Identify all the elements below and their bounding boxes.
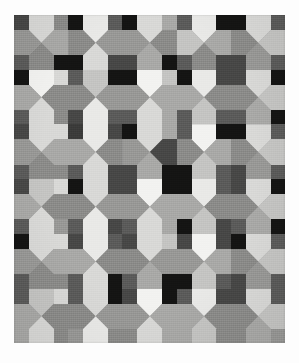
quilt-corner-patch-tr (54, 234, 69, 249)
quilt-block (68, 70, 123, 125)
quilt-block (122, 70, 177, 125)
quilt-corner-patch-tl (122, 15, 137, 30)
quilt-corner-patch-br (54, 274, 69, 289)
quilt-corner-patch-bl (177, 165, 192, 180)
quilt-corner-patch-tr (216, 70, 231, 85)
quilt-corner-patch-tr (54, 289, 69, 304)
quilt-block (68, 124, 123, 179)
quilt-corner-patch-tl (68, 289, 83, 304)
quilt-corner-patch-br (216, 219, 231, 234)
quilt-corner-patch-bl (68, 274, 83, 289)
quilt-corner-patch-tr (216, 289, 231, 304)
quilt-corner-patch-tl (14, 70, 29, 85)
quilt-corner-patch-bl (177, 329, 192, 343)
quilt-corner-patch-tl (122, 234, 137, 249)
quilt-corner-patch-br (271, 274, 285, 289)
quilt-corner-patch-bl (231, 55, 246, 70)
quilt-block (231, 124, 285, 179)
quilt-corner-patch-tl (231, 234, 246, 249)
quilt-corner-patch-bl (68, 329, 83, 343)
quilt-block (122, 179, 177, 234)
quilt-corner-patch-bl (231, 219, 246, 234)
quilt-corner-patch-tl (231, 179, 246, 194)
quilt-corner-patch-br (108, 110, 123, 125)
quilt-corner-patch-bl (231, 165, 246, 180)
quilt-corner-patch-bl (177, 110, 192, 125)
quilt-corner-patch-tl (68, 179, 83, 194)
quilt-corner-patch-tl (177, 179, 192, 194)
quilt-corner-patch-br (54, 329, 69, 343)
quilt-block (122, 289, 177, 344)
quilt-corner-patch-bl (68, 55, 83, 70)
quilt-corner-patch-tr (162, 15, 177, 30)
quilt-corner-patch-bl (14, 329, 29, 343)
quilt-corner-patch-tr (271, 179, 285, 194)
quilt-corner-patch-tr (54, 124, 69, 139)
quilt-corner-patch-tl (122, 289, 137, 304)
quilt-corner-patch-bl (68, 165, 83, 180)
quilt-block (68, 179, 123, 234)
quilt-corner-patch-bl (122, 165, 137, 180)
quilt-corner-patch-tr (216, 234, 231, 249)
quilt-block (231, 179, 285, 234)
quilt-block (177, 234, 232, 289)
quilt-corner-patch-br (271, 110, 285, 125)
quilt-corner-patch-tl (14, 15, 29, 30)
quilt-corner-patch-bl (122, 329, 137, 343)
quilt-corner-patch-tr (271, 70, 285, 85)
quilt-corner-patch-bl (231, 329, 246, 343)
quilt-block (68, 289, 123, 344)
quilt-block (122, 234, 177, 289)
quilt-corner-patch-tr (108, 179, 123, 194)
quilt-corner-patch-bl (231, 274, 246, 289)
quilt-block (68, 15, 123, 70)
quilt-corner-patch-tr (108, 70, 123, 85)
quilt-corner-patch-tl (177, 70, 192, 85)
quilt-block (177, 289, 232, 344)
quilt-top (14, 15, 285, 343)
quilt-corner-patch-tr (54, 15, 69, 30)
quilt-block (14, 179, 69, 234)
quilt-block (14, 15, 69, 70)
quilt-corner-patch-tr (108, 234, 123, 249)
quilt-corner-patch-bl (122, 219, 137, 234)
quilt-corner-patch-br (216, 274, 231, 289)
quilt-corner-patch-br (54, 110, 69, 125)
quilt-corner-patch-bl (14, 219, 29, 234)
quilt-corner-patch-br (108, 219, 123, 234)
quilt-corner-patch-tr (162, 124, 177, 139)
quilt-corner-patch-tl (231, 124, 246, 139)
quilt-corner-patch-tr (108, 124, 123, 139)
quilt-corner-patch-bl (122, 274, 137, 289)
quilt-corner-patch-bl (14, 55, 29, 70)
quilt-corner-patch-tl (122, 70, 137, 85)
quilt-corner-patch-tr (108, 289, 123, 304)
quilt-corner-patch-tr (54, 70, 69, 85)
quilt-block (231, 70, 285, 125)
quilt-corner-patch-tr (162, 179, 177, 194)
quilt-block (231, 234, 285, 289)
quilt-corner-patch-bl (177, 219, 192, 234)
quilt-corner-patch-tl (231, 15, 246, 30)
quilt-corner-patch-br (108, 55, 123, 70)
quilt-block (177, 70, 232, 125)
quilt-corner-patch-br (108, 274, 123, 289)
image-canvas (0, 0, 299, 363)
quilt-corner-patch-tr (216, 124, 231, 139)
quilt-block (122, 124, 177, 179)
quilt-corner-patch-tl (177, 124, 192, 139)
quilt-corner-patch-tl (14, 234, 29, 249)
quilt-corner-patch-br (108, 165, 123, 180)
quilt-corner-patch-bl (122, 110, 137, 125)
quilt-corner-patch-bl (177, 55, 192, 70)
quilt-corner-patch-bl (68, 110, 83, 125)
quilt-block (14, 124, 69, 179)
quilt-corner-patch-tl (177, 15, 192, 30)
quilt-corner-patch-br (271, 219, 285, 234)
quilt-corner-patch-tr (271, 15, 285, 30)
quilt-corner-patch-tl (122, 124, 137, 139)
quilt-corner-patch-tr (271, 234, 285, 249)
quilt-corner-patch-tl (231, 70, 246, 85)
quilt-corner-patch-tr (162, 289, 177, 304)
quilt-corner-patch-tl (177, 289, 192, 304)
